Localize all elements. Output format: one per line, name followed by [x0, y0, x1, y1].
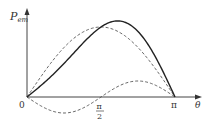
half-pi-numerator: π: [97, 102, 102, 111]
chart: Pem 0 π θ π 2: [0, 0, 215, 127]
x-axis-label: θ: [195, 100, 201, 110]
pi-label: π: [171, 100, 177, 110]
y-axis-arrow-icon: [25, 8, 30, 15]
origin-label: 0: [19, 100, 25, 110]
half-pi-denominator: 2: [97, 112, 102, 121]
sin-theta-curve: [27, 27, 175, 97]
power-curve: [27, 21, 175, 97]
x-axis-arrow-icon: [195, 95, 202, 100]
